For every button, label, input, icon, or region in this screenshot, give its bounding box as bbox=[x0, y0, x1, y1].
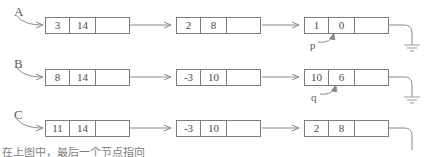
node-a-1-cell-2 bbox=[96, 18, 129, 33]
node-a-2-cell-2 bbox=[227, 18, 260, 33]
linked-list-diagram: A 3 14 2 8 1 0 p B 8 14 -3 10 10 6 q C 1… bbox=[0, 0, 431, 157]
node-c-2-cell-0: -3 bbox=[177, 121, 201, 136]
tail-c bbox=[387, 128, 412, 150]
node-a-3-cell-1: 0 bbox=[329, 18, 355, 33]
node-b-1-cell-2 bbox=[96, 70, 129, 85]
node-b-3-cell-2 bbox=[355, 70, 388, 85]
node-b-2-cell-1: 10 bbox=[201, 70, 227, 85]
pointer-arrow-q bbox=[320, 85, 336, 94]
tail-a bbox=[387, 25, 412, 45]
node-c-1-cell-1: 14 bbox=[70, 121, 96, 136]
pointer-label-q: q bbox=[311, 92, 317, 103]
node-c-1-cell-2 bbox=[96, 121, 129, 136]
tail-b bbox=[387, 77, 412, 97]
row-label-b: B bbox=[14, 57, 23, 70]
node-c-3-cell-0: 2 bbox=[305, 121, 329, 136]
pointer-arrow-p bbox=[318, 33, 334, 42]
node-b-3: 10 6 bbox=[304, 69, 389, 86]
node-a-3: 1 0 bbox=[304, 17, 389, 34]
node-b-3-cell-0: 10 bbox=[305, 70, 329, 85]
node-a-2-cell-0: 2 bbox=[177, 18, 201, 33]
row-label-c: C bbox=[14, 108, 23, 121]
ground-symbol-b bbox=[404, 97, 420, 103]
node-c-1-cell-0: 11 bbox=[46, 121, 70, 136]
node-a-1-cell-0: 3 bbox=[46, 18, 70, 33]
node-a-1-cell-1: 14 bbox=[70, 18, 96, 33]
pointer-label-p: p bbox=[310, 40, 316, 51]
node-b-2-cell-0: -3 bbox=[177, 70, 201, 85]
node-a-3-cell-0: 1 bbox=[305, 18, 329, 33]
node-c-1: 11 14 bbox=[45, 120, 130, 137]
node-a-3-cell-2 bbox=[355, 18, 388, 33]
node-b-1: 8 14 bbox=[45, 69, 130, 86]
node-b-1-cell-1: 14 bbox=[70, 70, 96, 85]
node-a-2: 2 8 bbox=[176, 17, 261, 34]
node-c-2-cell-2 bbox=[227, 121, 260, 136]
node-c-3: 2 8 bbox=[304, 120, 389, 137]
node-b-3-cell-1: 6 bbox=[329, 70, 355, 85]
node-c-3-cell-2 bbox=[355, 121, 388, 136]
caption-clipped: 在上图中，最后一个节点指向 bbox=[2, 147, 202, 157]
node-b-2-cell-2 bbox=[227, 70, 260, 85]
node-b-1-cell-0: 8 bbox=[46, 70, 70, 85]
node-c-3-cell-1: 8 bbox=[329, 121, 355, 136]
node-a-2-cell-1: 8 bbox=[201, 18, 227, 33]
node-b-2: -3 10 bbox=[176, 69, 261, 86]
node-c-2: -3 10 bbox=[176, 120, 261, 137]
node-c-2-cell-1: 10 bbox=[201, 121, 227, 136]
ground-symbol-a bbox=[404, 45, 420, 51]
node-a-1: 3 14 bbox=[45, 17, 130, 34]
row-label-a: A bbox=[14, 5, 23, 18]
